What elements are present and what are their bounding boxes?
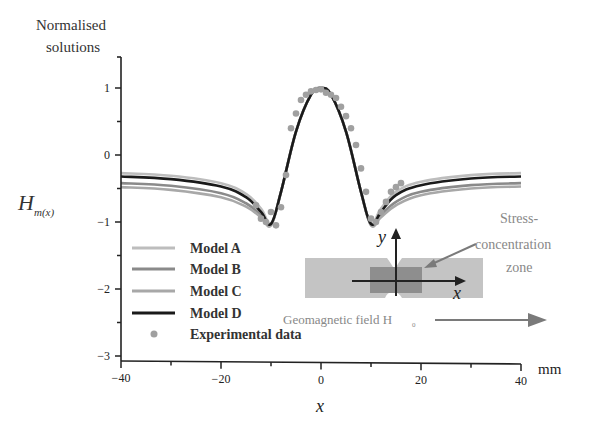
series-line-model-d xyxy=(121,88,521,225)
series-line-model-c xyxy=(121,88,521,227)
experimental-point xyxy=(353,142,360,149)
annotation-line2: concentration xyxy=(475,237,551,252)
annotation-line3: zone xyxy=(506,260,532,275)
experimental-point xyxy=(338,103,345,110)
legend-item-model-b: Model B xyxy=(132,262,241,277)
legend-swatch-experimental xyxy=(151,331,158,338)
experimental-point xyxy=(253,202,260,209)
experimental-point xyxy=(383,199,390,206)
y-label-line2: solutions xyxy=(46,39,100,55)
experimental-point xyxy=(283,172,290,179)
series-line-model-b xyxy=(121,88,521,226)
x-tick-label: −40 xyxy=(112,371,131,385)
experimental-point xyxy=(333,95,340,102)
y-axis-symbol: H m(x) xyxy=(17,190,54,219)
legend-label-model-d: Model D xyxy=(190,306,242,321)
plot-area xyxy=(121,86,521,229)
x-tick-label: 40 xyxy=(515,374,527,388)
experimental-point xyxy=(263,219,270,226)
experimental-point xyxy=(373,219,380,226)
experimental-point xyxy=(358,165,365,172)
x-tick-label: 20 xyxy=(415,373,427,387)
experimental-point xyxy=(363,189,370,196)
experimental-point xyxy=(298,97,305,104)
experimental-point xyxy=(293,110,300,117)
y-tick-label: −2 xyxy=(97,282,110,296)
inset-y-label: y xyxy=(376,227,386,247)
inset-diagram: y x Stress- concentration zone Geomagnet… xyxy=(283,211,551,329)
experimental-point xyxy=(343,113,350,120)
field-subscript: 0 xyxy=(412,321,416,329)
inset-y-arrowhead xyxy=(391,228,401,239)
ticks: −3−2−101−40−2002040 xyxy=(97,81,527,388)
y-tick-label: 1 xyxy=(104,81,110,95)
x-tick-label: −20 xyxy=(212,372,231,386)
y-label-line1: Normalised xyxy=(36,17,106,33)
experimental-point xyxy=(348,125,355,132)
experimental-point xyxy=(378,209,385,216)
field-label: Geomagnetic field H xyxy=(283,312,392,327)
series-line-model-a xyxy=(121,88,521,224)
experimental-point xyxy=(288,125,295,132)
experimental-point xyxy=(273,222,280,229)
legend-item-model-c: Model C xyxy=(132,284,242,299)
x-tick-label: 0 xyxy=(318,373,324,387)
x-axis-unit: mm xyxy=(538,361,562,377)
experimental-point xyxy=(278,204,285,211)
legend: Model A Model B Model C Model D Experime… xyxy=(132,241,302,342)
experimental-point xyxy=(398,180,405,187)
inset-x-label: x xyxy=(452,283,461,303)
legend-item-experimental: Experimental data xyxy=(151,327,302,342)
legend-label-model-c: Model C xyxy=(190,284,242,299)
legend-item-model-d: Model D xyxy=(132,306,242,321)
y-axis-symbol-main: H xyxy=(17,190,35,215)
y-axis-symbol-subscript: m(x) xyxy=(34,206,54,219)
experimental-point xyxy=(388,189,395,196)
chart: −3−2−101−40−2002040 Normalised solutions… xyxy=(0,0,605,429)
experimental-point xyxy=(268,209,275,216)
legend-item-model-a: Model A xyxy=(132,241,242,256)
legend-label-model-b: Model B xyxy=(190,262,241,277)
legend-label-model-a: Model A xyxy=(190,241,242,256)
y-tick-label: 0 xyxy=(104,148,110,162)
annotation-line1: Stress- xyxy=(500,211,538,226)
y-tick-label: −1 xyxy=(97,215,110,229)
field-arrow-head xyxy=(528,313,547,327)
y-tick-label: −3 xyxy=(97,349,110,363)
x-axis-label: x xyxy=(315,396,324,416)
legend-label-experimental: Experimental data xyxy=(190,327,302,342)
